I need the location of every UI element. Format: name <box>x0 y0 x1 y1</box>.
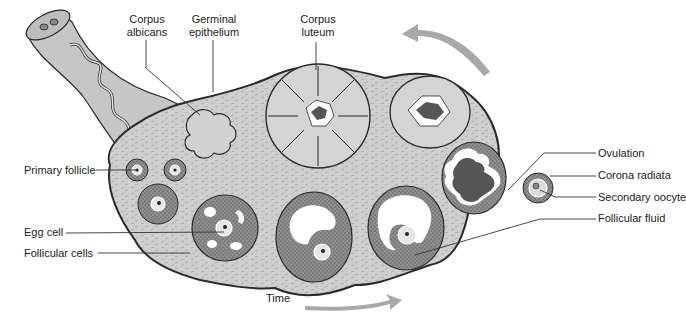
label-germinal-epithelium: Germinal epithelium <box>186 13 242 39</box>
corpus-albicans <box>185 110 236 158</box>
early-antral-follicle <box>192 195 258 261</box>
label-line: Germinal <box>186 13 242 26</box>
time-arrow-top <box>402 24 490 76</box>
growing-follicle <box>138 184 178 224</box>
label-egg-cell: Egg cell <box>24 226 63 239</box>
antral-follicle <box>276 192 352 282</box>
label-follicular-fluid: Follicular fluid <box>598 212 665 225</box>
label-line: luteum <box>298 26 338 39</box>
label-line: albicans <box>125 26 169 39</box>
label-ovulation: Ovulation <box>598 147 644 160</box>
corpus-luteum-regressing <box>390 76 470 148</box>
label-follicular-cells: Follicular cells <box>24 247 93 260</box>
time-arrow-bottom <box>305 294 402 311</box>
label-secondary-oocyte: Secondary oocyte <box>598 191 686 204</box>
label-primary-follicle: Primary follicle <box>24 164 96 177</box>
label-corpus-albicans: Corpus albicans <box>125 13 169 39</box>
label-line: epithelium <box>186 26 242 39</box>
label-time: Time <box>266 292 290 305</box>
cropped-title <box>0 0 340 2</box>
ovulating-follicle <box>442 142 506 214</box>
label-line: Corpus <box>298 13 338 26</box>
mature-follicle <box>368 186 444 270</box>
corpus-luteum <box>266 64 370 168</box>
released-oocyte <box>523 173 553 203</box>
label-line: Corpus <box>125 13 169 26</box>
label-corpus-luteum: Corpus luteum <box>298 13 338 39</box>
label-corona-radiata: Corona radiata <box>598 169 671 182</box>
